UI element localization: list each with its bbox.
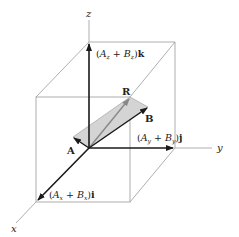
vector-a-label: A [66, 145, 75, 156]
i-component-label: (Ax + Bx)i [49, 189, 95, 201]
vector-addition-diagram: z y x R B A (Az + Bz)k (Ay + By)j (Ax + … [0, 0, 239, 237]
y-axis-label: y [216, 142, 223, 153]
x-axis-line [16, 202, 36, 223]
j-component-label: (Ay + By)j [137, 132, 183, 145]
vector-r-label: R [122, 86, 131, 97]
x-axis-label: x [11, 223, 17, 234]
vector-b-label: B [145, 113, 153, 124]
z-axis-label: z [85, 8, 92, 19]
k-component-label: (Az + Bz)k [96, 48, 145, 60]
